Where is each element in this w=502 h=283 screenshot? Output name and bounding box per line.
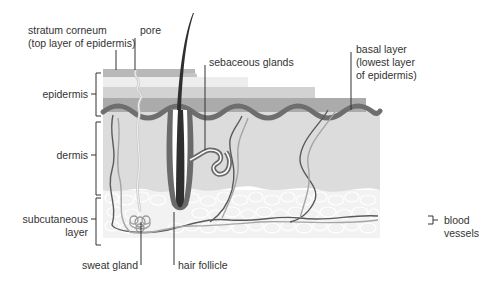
label-subcutaneous-layer: subcutaneous layer — [10, 213, 88, 239]
label-pore: pore — [140, 24, 161, 37]
label-stratum-corneum: stratum corneum (top layer of epidermis) — [28, 24, 135, 50]
epidermis-mid-band — [103, 87, 315, 98]
label-blood-vessels: blood vessels — [444, 214, 479, 240]
label-basal-layer: basal layer (lowest layer of epidermis) — [356, 43, 417, 82]
label-sebaceous-glands: sebaceous glands — [209, 56, 294, 69]
label-hair-follicle: hair follicle — [178, 259, 228, 272]
label-dermis: dermis — [30, 149, 88, 162]
epidermis-light-band — [103, 77, 248, 87]
label-sweat-gland: sweat gland — [68, 259, 138, 272]
label-epidermis: epidermis — [30, 88, 88, 101]
dermis-layer — [103, 110, 380, 192]
